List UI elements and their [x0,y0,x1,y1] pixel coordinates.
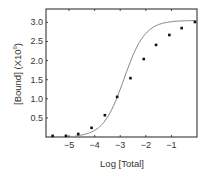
data-point-marker [168,34,171,37]
x-tick-label: −1 [166,140,176,150]
data-point-marker [116,96,119,99]
y-tick-label: 1.0 [30,94,43,104]
sigmoid-fit-line [75,21,197,136]
x-axis-label: Log [Total] [100,158,144,169]
data-point-marker [142,58,145,61]
y-axis-label: [Bound] (X106) [12,43,23,105]
plot-border [46,9,197,137]
plot-frame [46,9,197,137]
x-tick-label: −3 [115,140,125,150]
data-point-marker [104,114,107,117]
x-tick-label: −5 [64,140,74,150]
fit-curve [75,21,197,136]
data-point-marker [129,77,132,80]
data-point-marker [194,21,197,24]
x-tick-label: −2 [141,140,151,150]
y-tick-label: 1.5 [30,75,43,85]
y-tick-label: 2.0 [30,56,43,66]
y-tick-label: 3.0 [30,17,43,27]
binding-curve-chart: −5−4−3−2−1 0.51.01.52.02.53.0 Log [Total… [0,0,209,179]
data-point-marker [65,135,68,138]
data-point-marker [180,27,183,30]
y-axis-ticks: 0.51.01.52.02.53.0 [30,17,48,123]
y-tick-label: 0.5 [30,113,43,123]
y-tick-label: 2.5 [30,36,43,46]
data-point-marker [51,135,54,138]
data-point-marker [77,133,80,136]
x-axis-ticks: −5−4−3−2−1 [64,9,177,150]
data-point-marker [90,127,93,130]
data-point-marker [155,44,158,47]
x-tick-label: −4 [89,140,99,150]
